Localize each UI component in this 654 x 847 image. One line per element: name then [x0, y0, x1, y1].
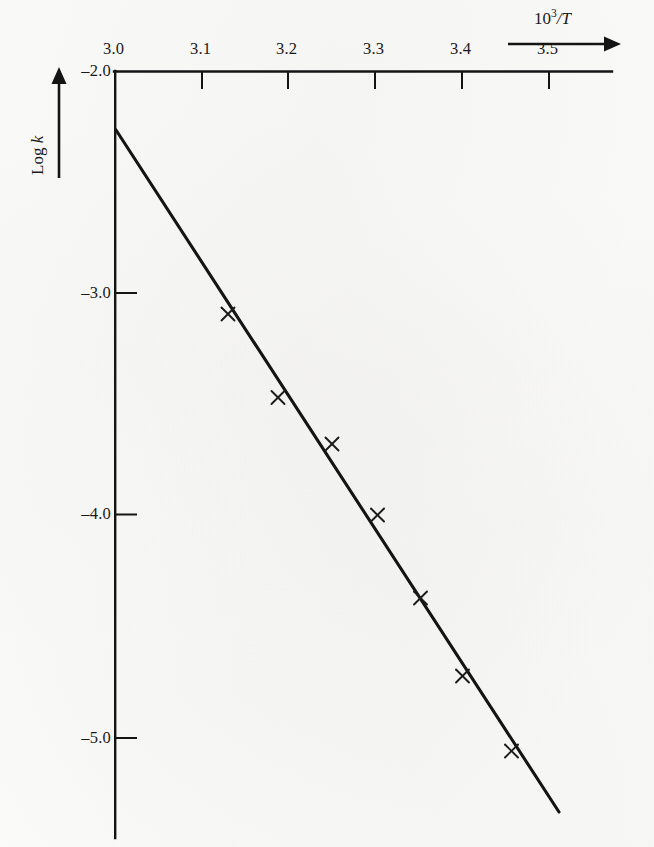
- data-point-markers: [222, 308, 519, 758]
- cross-marker-icon: [326, 438, 339, 451]
- arrhenius-plot-graphic: [0, 0, 654, 847]
- x-tick-label-3.2: 3.2: [276, 41, 297, 58]
- cross-marker-icon: [272, 391, 285, 404]
- y-axis-title-prefix: Log: [28, 143, 47, 175]
- x-axis-title: 103/T: [534, 9, 571, 29]
- x-axis-group: [114, 72, 612, 90]
- cross-marker-icon: [222, 308, 235, 321]
- arrow-right-icon: [508, 37, 621, 52]
- x-tick-label-3.3: 3.3: [363, 41, 384, 58]
- fit-line: [116, 130, 559, 812]
- y-tick-label-minus5: –5.0: [75, 730, 111, 747]
- cross-marker-icon: [371, 509, 384, 522]
- x-axis-title-base: 10: [534, 9, 551, 28]
- y-tick-label-minus3: –3.0: [75, 285, 111, 302]
- y-axis-title: Log k: [28, 136, 48, 175]
- arrow-up-icon: [52, 67, 67, 178]
- x-tick-label-3.5: 3.5: [537, 41, 558, 58]
- x-axis-title-divisor: /T: [557, 9, 571, 28]
- figure-page: 3.0 3.1 3.2 3.3 3.4 3.5 –2.0 –3.0 –4.0 –…: [0, 0, 654, 847]
- cross-marker-icon: [456, 670, 469, 683]
- x-tick-label-3.4: 3.4: [450, 41, 471, 58]
- y-tick-label-minus4: –4.0: [75, 506, 111, 523]
- y-axis-group: [115, 71, 137, 838]
- x-tick-label-3.0: 3.0: [103, 41, 124, 58]
- cross-marker-icon: [505, 745, 518, 758]
- y-tick-label-minus2: –2.0: [75, 63, 111, 80]
- cross-marker-icon: [414, 592, 427, 605]
- x-tick-label-3.1: 3.1: [190, 41, 211, 58]
- y-axis-title-symbol: k: [28, 136, 47, 144]
